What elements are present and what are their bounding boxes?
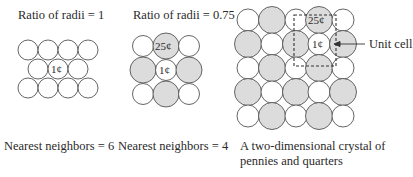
- panel1-penny-label: 1¢: [51, 62, 62, 76]
- unit-cell-label: Unit cell: [369, 37, 412, 51]
- panel3-caption-line1: A two-dimensional crystal of: [240, 139, 385, 153]
- panel3-crystal: [235, 7, 357, 130]
- panel2-penny-label: 1¢: [159, 63, 170, 77]
- panel3-penny-label: 1¢: [312, 37, 323, 51]
- panel2-quarter-label: 25¢: [155, 39, 172, 53]
- panel2-caption: Nearest neighbors = 4: [118, 139, 228, 153]
- panel3-caption-line2: pennies and quarters: [240, 154, 343, 168]
- panel1-caption: Nearest neighbors = 6: [4, 139, 114, 153]
- panel3-quarter-label: 25¢: [308, 13, 325, 27]
